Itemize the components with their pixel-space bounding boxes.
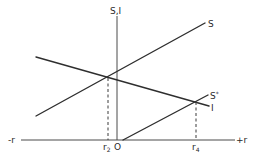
r2-label: r2 bbox=[103, 142, 111, 153]
savings-curve-s bbox=[36, 23, 205, 116]
y-axis-label: S,I bbox=[110, 6, 121, 16]
investment-curve-i bbox=[36, 57, 209, 106]
savings-investment-diagram: S,I -r +r O S I S* r2 r4 bbox=[0, 0, 261, 162]
r4-label-sub: 4 bbox=[196, 146, 200, 153]
label-i: I bbox=[211, 103, 214, 113]
label-s-star-sup: * bbox=[216, 90, 219, 97]
x-axis-negative-label: -r bbox=[8, 135, 15, 145]
savings-curve-s-star bbox=[123, 95, 208, 140]
x-axis-positive-label: +r bbox=[236, 135, 248, 145]
origin-label: O bbox=[114, 142, 121, 152]
r2-label-sub: 2 bbox=[107, 146, 111, 153]
label-s: S bbox=[208, 19, 214, 29]
label-s-star: S* bbox=[210, 90, 219, 101]
r4-label: r4 bbox=[192, 142, 200, 153]
